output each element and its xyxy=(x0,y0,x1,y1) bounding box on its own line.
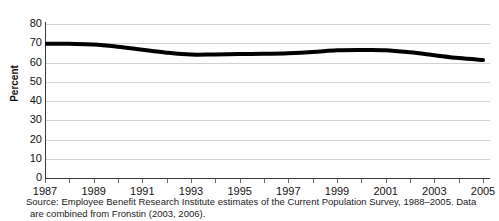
y-tick-label: 50 xyxy=(16,76,42,87)
y-tick-label: 80 xyxy=(16,18,42,29)
y-tick-label: 70 xyxy=(16,37,42,48)
y-tick-label: 20 xyxy=(16,134,42,145)
series-path-coverage xyxy=(45,44,483,60)
chart-title-cropped xyxy=(0,0,499,9)
source-note: Source: Employee Benefit Research Instit… xyxy=(30,196,492,220)
y-axis-tick-labels: 80706050403020100 xyxy=(16,10,42,190)
y-tick-label: 0 xyxy=(16,172,42,183)
chart-figure: Percent 80706050403020100 19871989199119… xyxy=(0,0,499,221)
y-tick-label: 40 xyxy=(16,95,42,106)
y-tick-label: 60 xyxy=(16,57,42,68)
plot-area: Percent 80706050403020100 19871989199119… xyxy=(0,10,499,190)
y-tick-label: 10 xyxy=(16,153,42,164)
y-tick-label: 30 xyxy=(16,114,42,125)
data-series-line xyxy=(45,10,490,190)
